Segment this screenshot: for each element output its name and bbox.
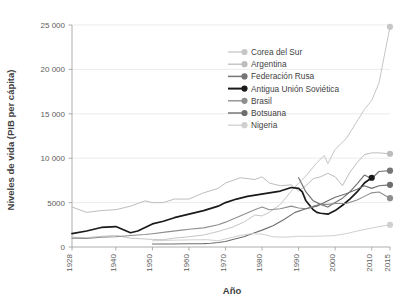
x-axis-tick-labels: 1928194019501960197019801990200020102015 [65,253,392,271]
legend-label-2[interactable]: Federación Rusa [251,71,315,81]
y-tick-label: 25 000 [41,21,66,30]
series-endpoint-3 [369,175,375,181]
series-endpoint-markers [369,24,393,228]
axes [69,25,391,251]
legend-label-0[interactable]: Corea del Sur [251,47,302,57]
x-tick-label: 1970 [219,253,228,271]
series-lines [72,27,390,244]
series-line-2 [299,171,390,207]
y-tick-label: 15 000 [41,110,66,119]
y-tick-label: 5000 [47,199,65,208]
y-tick-label: 20 000 [41,65,66,74]
series-line-6 [152,225,390,241]
x-tick-label: 2010 [365,253,374,271]
legend-marker-1 [241,61,247,67]
legend-marker-6 [241,122,247,128]
legend-label-1[interactable]: Argentina [251,59,287,69]
x-tick-label: 1960 [182,253,191,271]
legend-marker-4 [241,98,247,104]
line-chart: 0500010 00015 00020 00025 000 1928194019… [0,0,416,302]
legend-marker-5 [241,110,247,116]
series-line-0 [72,27,390,240]
x-tick-label: 1950 [145,253,154,271]
chart-container: 0500010 00015 00020 00025 000 1928194019… [0,0,416,302]
x-tick-label: 2000 [328,253,337,271]
legend-marker-3 [241,86,247,92]
x-tick-label: 1928 [65,253,74,271]
series-endpoint-2 [387,168,393,174]
x-tick-label: 2015 [383,253,392,271]
series-endpoint-0 [387,24,393,30]
series-endpoint-6 [387,222,393,228]
legend-marker-2 [241,73,247,79]
y-axis-title: Niveles de vida (PIB per cápita) [5,70,16,211]
legend: Corea del SurArgentinaFederación RusaAnt… [228,47,339,130]
legend-label-3[interactable]: Antigua Unión Soviética [251,84,339,94]
x-tick-label: 1990 [292,253,301,271]
x-axis-title: Año [223,285,242,296]
y-tick-label: 10 000 [41,154,66,163]
legend-label-6[interactable]: Nigeria [251,120,278,130]
y-axis-tick-labels: 0500010 00015 00020 00025 000 [41,21,66,252]
series-endpoint-1 [387,151,393,157]
legend-label-5[interactable]: Botsuana [251,108,286,118]
series-endpoint-5 [387,182,393,188]
series-endpoint-4 [387,195,393,201]
x-tick-label: 1940 [109,253,118,271]
legend-marker-0 [241,49,247,55]
x-tick-label: 1980 [255,253,264,271]
y-tick-label: 0 [61,243,66,252]
legend-label-4[interactable]: Brasil [251,96,272,106]
